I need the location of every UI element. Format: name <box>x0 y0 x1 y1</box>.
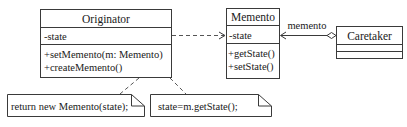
note-set-anchor-line <box>170 78 186 94</box>
originator-name: Originator <box>82 13 130 26</box>
memento-operation-getstate: +getState() <box>228 48 275 60</box>
class-originator: Originator -state +setMemento(m: Memento… <box>41 10 172 78</box>
memento-operation-setstate: +setState() <box>228 61 274 73</box>
originator-operation-setmemento: +setMemento(m: Memento) <box>44 49 163 61</box>
hollow-diamond-icon <box>327 33 336 39</box>
note-create-text: return new Memento(state); <box>11 101 128 113</box>
uml-diagram: Originator -state +setMemento(m: Memento… <box>0 0 407 127</box>
caretaker-name: Caretaker <box>347 30 392 42</box>
originator-operation-creatememento: +createMemento() <box>44 62 123 74</box>
memento-name: Memento <box>231 11 275 23</box>
aggregation-caretaker-memento: memento <box>281 20 337 39</box>
note-set-text: state=m.getState(); <box>158 101 238 113</box>
dependency-originator-to-memento <box>172 32 225 39</box>
note-create: return new Memento(state); <box>8 95 145 117</box>
originator-attribute-state: -state <box>44 31 67 42</box>
class-memento: Memento -state +getState() +setState() <box>227 9 280 79</box>
association-role-label: memento <box>287 20 326 31</box>
note-create-anchor-line <box>120 78 139 94</box>
note-set: state=m.getState(); <box>151 95 272 117</box>
memento-attribute-state: -state <box>229 30 252 41</box>
class-caretaker: Caretaker <box>337 27 403 59</box>
